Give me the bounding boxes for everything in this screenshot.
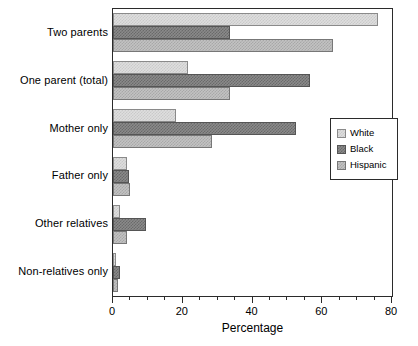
x-tick-major <box>182 297 183 303</box>
x-tick-label: 20 <box>176 306 188 317</box>
x-axis-title: Percentage <box>112 322 393 335</box>
bar-one-parent-total-hispanic <box>113 87 230 100</box>
bar-one-parent-total-white <box>113 61 188 74</box>
legend-item-hispanic: Hispanic <box>337 157 397 173</box>
bar-non-relatives-only-white <box>113 253 116 266</box>
category-label: Father only <box>0 170 108 181</box>
x-tick-minor <box>129 297 130 300</box>
bar-other-relatives-black <box>113 218 146 231</box>
bar-two-parents-black <box>113 26 230 39</box>
bar-other-relatives-hispanic <box>113 231 127 244</box>
legend-item-white: White <box>337 125 397 141</box>
x-tick-major <box>252 297 253 303</box>
x-tick-minor <box>234 297 235 300</box>
bar-father-only-hispanic <box>113 183 130 196</box>
legend-swatch-white <box>337 129 346 138</box>
legend-label: Black <box>350 144 373 154</box>
x-tick-minor <box>286 297 287 300</box>
x-tick-minor <box>374 297 375 300</box>
bar-chart: Two parentsOne parent (total)Mother only… <box>0 0 418 346</box>
category-label: Mother only <box>0 122 108 133</box>
x-tick-major <box>321 297 322 303</box>
x-tick-minor <box>147 297 148 300</box>
category-label: Non-relatives only <box>0 266 108 277</box>
x-tick-major <box>391 297 392 303</box>
x-tick-label: 60 <box>315 306 327 317</box>
x-tick-minor <box>304 297 305 300</box>
category-label: Other relatives <box>0 218 108 229</box>
x-tick-minor <box>217 297 218 300</box>
legend-swatch-black <box>337 145 346 154</box>
x-tick-minor <box>199 297 200 300</box>
bar-father-only-white <box>113 157 127 170</box>
category-label: Two parents <box>0 26 108 37</box>
bar-mother-only-black <box>113 122 296 135</box>
x-tick-minor <box>269 297 270 300</box>
x-tick-major <box>112 297 113 303</box>
legend-label: Hispanic <box>350 160 386 170</box>
bar-two-parents-white <box>113 13 378 26</box>
legend-swatch-hispanic <box>337 161 346 170</box>
legend: WhiteBlackHispanic <box>330 118 398 180</box>
bar-father-only-black <box>113 170 129 183</box>
bar-mother-only-white <box>113 109 176 122</box>
legend-label: White <box>350 128 374 138</box>
category-label: One parent (total) <box>0 74 108 85</box>
bar-two-parents-hispanic <box>113 39 333 52</box>
x-tick-minor <box>164 297 165 300</box>
x-tick-minor <box>356 297 357 300</box>
category-axis: Two parentsOne parent (total)Mother only… <box>0 8 108 297</box>
x-tick-label: 0 <box>109 306 115 317</box>
bar-mother-only-hispanic <box>113 135 212 148</box>
x-tick-minor <box>339 297 340 300</box>
x-tick-label: 40 <box>245 306 257 317</box>
bar-non-relatives-only-hispanic <box>113 279 118 292</box>
bar-one-parent-total-black <box>113 74 310 87</box>
x-tick-label: 80 <box>385 306 397 317</box>
bar-non-relatives-only-black <box>113 266 120 279</box>
legend-item-black: Black <box>337 141 397 157</box>
bar-other-relatives-white <box>113 205 120 218</box>
